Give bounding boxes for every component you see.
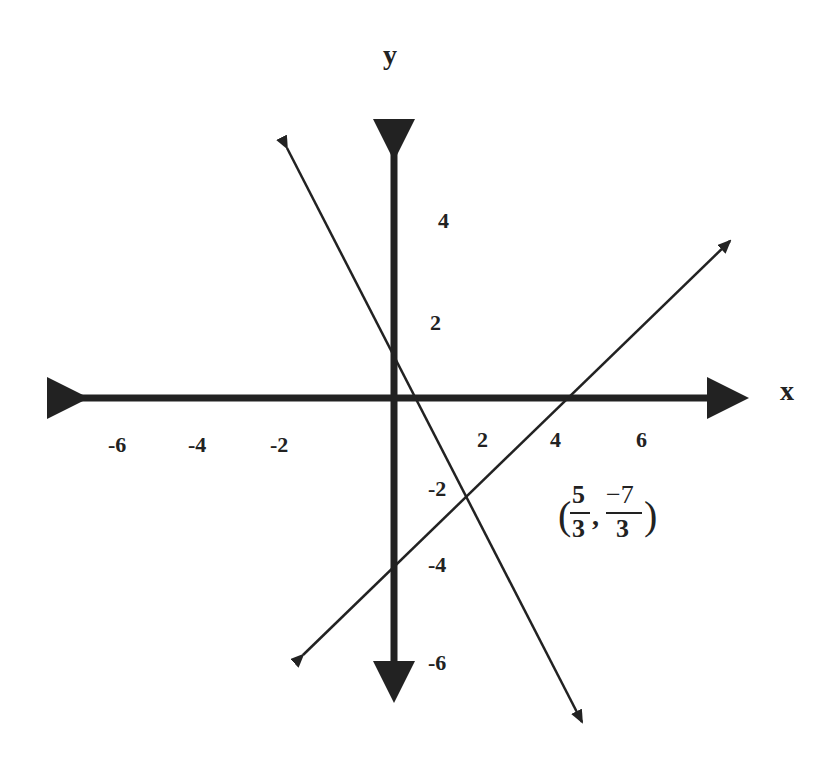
paren-close: ) bbox=[644, 492, 657, 539]
y-axis-label: y bbox=[383, 39, 397, 70]
y-tick: 4 bbox=[438, 208, 449, 233]
graph-svg: y x -6 -4 -2 2 4 6 4 2 -2 -4 -6 bbox=[0, 0, 837, 767]
y-tick: -4 bbox=[428, 552, 446, 577]
x-tick: 6 bbox=[636, 427, 647, 452]
coordinate-plane: y x -6 -4 -2 2 4 6 4 2 -2 -4 -6 ( 5 3 , … bbox=[0, 0, 837, 767]
y-denominator: 3 bbox=[616, 514, 629, 544]
y-tick: 2 bbox=[430, 310, 441, 335]
x-tick: -2 bbox=[270, 432, 288, 457]
x-tick: 2 bbox=[477, 427, 488, 452]
x-tick: -6 bbox=[108, 432, 126, 457]
x-denominator: 3 bbox=[572, 514, 585, 544]
y-numerator: −7 bbox=[606, 480, 634, 510]
line-decreasing bbox=[287, 148, 582, 722]
separator: , bbox=[592, 500, 599, 532]
y-tick: -6 bbox=[428, 650, 446, 675]
x-axis-label: x bbox=[780, 375, 794, 406]
y-tick: -2 bbox=[428, 476, 446, 501]
x-numerator: 5 bbox=[572, 480, 585, 510]
x-tick: 4 bbox=[550, 427, 561, 452]
intersection-label: ( 5 3 , −7 3 ) bbox=[558, 478, 668, 558]
x-tick: -4 bbox=[188, 432, 206, 457]
paren-open: ( bbox=[558, 492, 571, 539]
